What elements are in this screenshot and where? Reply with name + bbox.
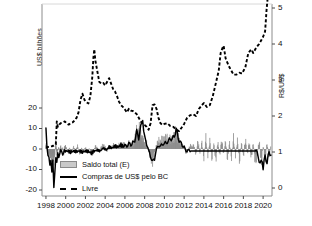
right-tick-label: 4 <box>278 39 282 48</box>
right-tick-label: 1 <box>278 147 282 156</box>
right-tick-label: 2 <box>278 111 282 120</box>
legend-item[interactable]: Compras de US$ pelo BC <box>60 172 168 181</box>
legend-swatch-saldo <box>60 161 77 168</box>
legend-swatch-compras <box>60 176 77 178</box>
legend-item[interactable]: Livre <box>60 184 98 193</box>
right-tick-label: 5 <box>278 3 282 12</box>
legend-item-label: Livre <box>82 184 98 193</box>
left-tick-label: 20 <box>8 103 37 112</box>
left-tick-label: 10 <box>8 123 37 132</box>
legend-item[interactable]: Saldo total (E) <box>60 160 130 169</box>
legend-item-label: Compras de US$ pelo BC <box>82 172 168 181</box>
left-tick-label: -20 <box>8 185 37 194</box>
x-tick-label: 2020 <box>247 201 279 210</box>
right-tick-label: 0 <box>278 183 282 192</box>
left-tick-label: 0 <box>8 144 37 153</box>
left-tick-label: -10 <box>8 164 37 173</box>
legend-item-label: Saldo total (E) <box>82 160 130 169</box>
chart-plot-area <box>0 0 312 226</box>
right-tick-label: 3 <box>278 75 282 84</box>
figure-canvas: US$ bilhões R$/US$ -20-1001020 012345 19… <box>0 0 312 226</box>
legend-swatch-livre <box>60 188 77 190</box>
